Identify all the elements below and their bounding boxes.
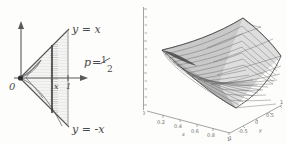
sketch-panel: 0 x 1 y = x y = -x p = 1 2 — [0, 0, 143, 144]
axis-y-tick-label-5: 1 — [280, 99, 283, 105]
figure-canvas: 0 x 1 y = x y = -x p = 1 2 — [0, 0, 286, 144]
label-line-lower: y = -x — [71, 123, 105, 136]
surface-svg: p 0 0.2 0.4 0.6 0.8 1 x — [143, 0, 286, 144]
axis-z-origin-label: 0 — [143, 110, 145, 116]
parameter-annotation: p = 1 2 — [84, 55, 113, 74]
origin-label: 0 — [9, 81, 16, 92]
parameter-denominator: 2 — [107, 64, 113, 74]
xtick-label-one: 1 — [66, 82, 71, 91]
xtick-label-x: x — [54, 82, 59, 91]
axis-y-tick-label-3: 0 — [255, 119, 258, 125]
parameter-equals: = — [92, 56, 101, 69]
axis-z-ticks — [144, 9, 148, 105]
axis-y-label: y — [258, 127, 263, 134]
axis-x: 0.2 0.4 0.6 0.8 1 x — [147, 111, 230, 142]
origin-point — [18, 75, 23, 80]
axis-z: p 0 — [143, 7, 147, 116]
axis-y-tick-label-1: -1 — [227, 135, 232, 141]
label-line-upper: y = x — [71, 23, 101, 36]
axis-x-tick-label-4: 0.8 — [207, 132, 215, 138]
axis-y-arrowhead — [18, 21, 24, 29]
surface-mesh — [162, 18, 281, 108]
axis-y-tick-label-2: -0.5 — [238, 128, 248, 134]
axis-x-arrowhead — [80, 75, 88, 81]
axis-y-ticks — [243, 106, 282, 128]
sketch-svg: 0 x 1 y = x y = -x p = 1 2 — [0, 0, 143, 144]
axis-x-tick-label-2: 0.4 — [174, 123, 182, 129]
axis-y-tick-label-4: 0.5 — [266, 112, 274, 118]
axis-x-tick-label-3: 0.6 — [191, 128, 199, 134]
axis-x-tick-label-1: 0.2 — [157, 119, 165, 125]
parameter-symbol: p — [84, 56, 91, 69]
surface-panel: p 0 0.2 0.4 0.6 0.8 1 x — [143, 0, 286, 144]
axis-x-label: x — [181, 131, 185, 137]
